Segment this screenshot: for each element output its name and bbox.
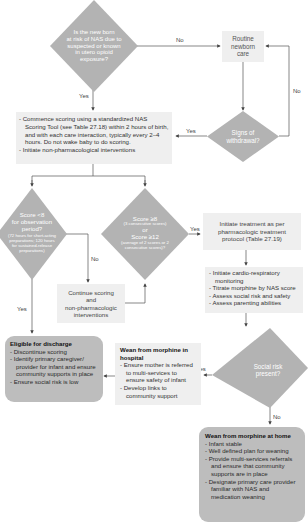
start-q-line: exposure? [80, 56, 108, 63]
label-lt8-no: No [91, 256, 99, 262]
signs-line: Signs of [232, 129, 255, 136]
social-risk-diamond: Social risk present? [212, 328, 308, 408]
eligible-item: - Ensure social risk is low [10, 378, 98, 386]
eligible-title: Eligible for discharge [10, 340, 98, 348]
signs-line: withdrawal? [226, 137, 259, 144]
scoring-instructions-box: - Commence scoring using a standardized … [16, 112, 172, 164]
wean-home-title: Wean from morphine at home [205, 432, 299, 440]
wean-home-box: Wean from morphine at home - Infant stab… [199, 427, 305, 522]
routine-care-box: Routine newborn care [222, 31, 264, 62]
eligible-discharge-box: Eligible for discharge - Discontinue sco… [5, 336, 103, 402]
continue-line: and [86, 296, 96, 303]
scoring-item: - Initiate non-pharmacological intervent… [19, 146, 169, 154]
label-ge8-yes: Yes [190, 226, 200, 232]
label-start-yes: Yes [79, 93, 89, 99]
continue-line: interventions [74, 311, 109, 318]
label-withdrawal-yes: Yes [186, 128, 196, 134]
routine-line: Routine [232, 35, 254, 43]
lt8-line: period? [22, 226, 42, 233]
score-ge8-diamond: Score ≥8 (3 consecutive scores) or Score… [101, 188, 189, 280]
initiate-treatment-box: Initiate treatment as per pharmacologic … [203, 213, 301, 250]
initiate-line: pharmacologic treatment [218, 228, 286, 236]
start-decision-diamond: Is the new born at risk of NAS due to su… [50, 0, 138, 92]
ge8-note: (average of 2 scores or 2 consecutive sc… [118, 241, 172, 251]
start-q-line: in utero opioid [75, 49, 113, 56]
social-line: present? [256, 370, 281, 377]
initiate-line: Initiate treatment as per [219, 220, 284, 228]
label-withdrawal-no: No [293, 88, 301, 94]
eligible-item: - Discontinue scoring [10, 348, 98, 356]
signs-withdrawal-diamond: Signs of withdrawal? [207, 111, 279, 162]
monitoring-item: - Assess social risk and safety [209, 292, 299, 300]
wean-home-item: - Provide multi-services referrals and e… [205, 455, 299, 478]
wean-hospital-item: - Develop links to community support [120, 384, 196, 399]
start-q-line: Is the new born [73, 29, 114, 36]
wean-hospital-box: Wean from morphine in hospital - Ensure … [115, 343, 201, 405]
eligible-item: - Identify primary caregiver/ provider f… [10, 355, 98, 378]
scoring-item: - Commence scoring using a standardized … [19, 115, 169, 146]
wean-hospital-item: - Ensure mother is referred to multi-ser… [120, 361, 196, 384]
wean-hospital-title: Wean from morphine in hospital [120, 346, 196, 361]
start-q-line: at risk of NAS due to [66, 36, 121, 43]
label-social-no: No [273, 414, 281, 420]
label-start-no: No [176, 37, 184, 43]
continue-line: non-pharmacologic [65, 304, 117, 311]
routine-line: newborn [231, 43, 255, 51]
initiate-line: protocol (Table 27.19) [222, 235, 282, 243]
monitoring-item: - Assess parenting abilities [209, 299, 299, 307]
wean-home-item: - Infant stable [205, 440, 299, 448]
continue-line: Continue scoring [68, 289, 114, 296]
score-lt8-diamond: Score <8 for observation period? (72 hou… [0, 188, 67, 280]
monitoring-item: - Titrate morphine by NAS score [209, 284, 299, 292]
start-q-line: suspected or known [67, 43, 120, 50]
continue-scoring-box: Continue scoring and non-pharmacologic i… [57, 284, 125, 323]
wean-home-item: - Designate primary care provider famili… [205, 478, 299, 501]
lt8-note: (72 hours for short-acting preparations;… [7, 233, 57, 254]
routine-line: care [237, 50, 249, 58]
monitoring-item: - Initiate cardio-respiratory monitoring [209, 269, 299, 284]
wean-home-item: - Well defined plan for weaning [205, 447, 299, 455]
social-line: Social risk [254, 363, 283, 370]
monitoring-box: - Initiate cardio-respiratory monitoring… [205, 267, 303, 313]
label-lt8-yes: Yes [17, 306, 27, 312]
